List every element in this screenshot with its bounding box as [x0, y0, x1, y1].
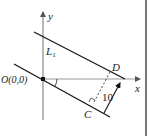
line-L1-label: L1: [45, 45, 56, 59]
line-through-origin: [14, 64, 110, 117]
origin-label: O(0,0): [1, 74, 28, 86]
origin-point: [41, 77, 45, 81]
coordinate-diagram: y x L1 O(0,0) D C 10: [0, 0, 152, 136]
angle-arc: [55, 79, 57, 86]
distance-label: 10: [102, 91, 114, 103]
x-axis-label: x: [134, 82, 140, 94]
point-D-label: D: [111, 61, 120, 73]
point-C-label: C: [84, 108, 92, 120]
y-axis-label: y: [47, 10, 53, 22]
